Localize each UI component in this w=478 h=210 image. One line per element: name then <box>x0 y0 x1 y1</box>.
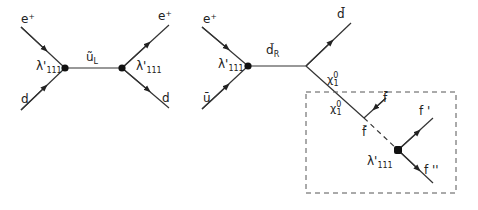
label-coupling-right: λ'111 <box>136 60 162 75</box>
label-squark-uL: ũL <box>86 51 98 66</box>
vertex-dot <box>244 62 251 69</box>
label-e-plus-in-2: e⁺ <box>203 13 217 25</box>
sfermion-line <box>364 118 398 150</box>
label-sfermion: f̃ <box>362 126 366 138</box>
label-coupling-box: λ'111 <box>367 155 393 170</box>
label-d-out: d <box>162 92 170 104</box>
diagram-lines <box>0 0 478 210</box>
decay-box <box>306 92 456 193</box>
label-f-bar: f̄ <box>383 92 387 104</box>
arrow-icon <box>21 27 45 49</box>
vertex-dot <box>118 64 125 71</box>
vertex-dot <box>394 146 402 154</box>
label-d-in: d <box>21 93 29 105</box>
arrow-icon <box>202 27 227 48</box>
label-f-double-prime: f '' <box>424 164 439 176</box>
feynman-diagrams: e⁺ d λ'111 ũL λ'111 e⁺ d e⁺ ū λ'111 d̃R … <box>0 0 478 210</box>
label-neutralino-upper: χ01 <box>327 72 339 88</box>
right-diagram <box>202 23 433 183</box>
arrow-icon <box>306 42 331 66</box>
label-coupling-left: λ'111 <box>36 60 62 75</box>
label-d-bar-out: d̄ <box>337 8 345 20</box>
label-e-plus-in: e⁺ <box>21 13 35 25</box>
label-e-plus-out: e⁺ <box>158 10 172 22</box>
label-u-bar-in: ū <box>203 92 211 104</box>
label-neutralino-box: χ01 <box>330 101 342 117</box>
label-squark-dR: d̃R <box>266 44 279 59</box>
label-coupling: λ'111 <box>218 58 244 73</box>
label-f-prime: f ' <box>419 105 430 117</box>
vertex-dot <box>61 64 68 71</box>
